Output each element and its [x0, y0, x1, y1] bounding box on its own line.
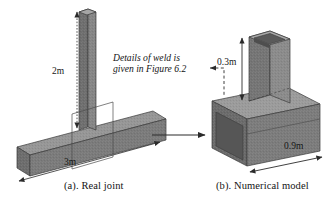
dimension-label-0-3m: 0.3m	[217, 57, 236, 67]
weld-detail-annotation: Details of weld is given in Figure 6.2	[113, 52, 206, 75]
figure-graphics	[0, 0, 334, 203]
real-column	[79, 9, 96, 130]
weld-note-line-2: given in Figure 6.2	[113, 63, 206, 74]
caption-real-joint: (a). Real joint	[64, 180, 124, 191]
figure-container: Details of weld is given in Figure 6.2 2…	[0, 0, 334, 203]
model-beam	[212, 86, 320, 166]
dimension-label-0-9m: 0.9m	[284, 141, 303, 151]
caption-numerical-model: (b). Numerical model	[216, 180, 309, 191]
dimension-label-3m: 3m	[64, 157, 76, 167]
weld-note-leader	[210, 65, 224, 95]
real-joint-drawing	[17, 9, 166, 181]
weld-note-line-1: Details of weld is	[113, 52, 206, 63]
numerical-model-drawing	[212, 31, 322, 172]
dimension-label-2m: 2m	[52, 66, 64, 76]
model-column	[249, 31, 290, 103]
